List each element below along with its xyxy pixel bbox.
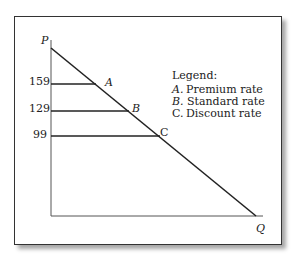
x-axis-label: Q [256, 222, 265, 235]
tick-99: 99 [33, 128, 47, 141]
legend-label-c: Discount rate [186, 107, 262, 120]
legend-key-c: C. [172, 107, 184, 120]
demand-line [51, 48, 256, 216]
legend: Legend: A. Premium rate B. Standard rate… [171, 69, 265, 120]
point-label-c: C [160, 126, 168, 139]
tick-129: 129 [29, 102, 50, 115]
point-label-b: B [131, 102, 140, 115]
point-label-a: A [104, 76, 113, 89]
tick-159: 159 [29, 75, 50, 88]
y-axis-label: P [40, 34, 49, 47]
legend-title: Legend: [172, 69, 217, 82]
demand-diagram: P Q 159 129 99 A B C Legend: A. Premium … [0, 0, 295, 259]
